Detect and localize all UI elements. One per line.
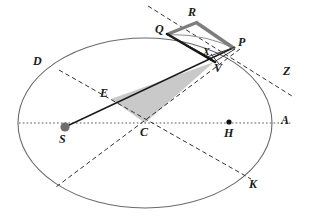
label-point-S: S	[59, 133, 66, 145]
segment-q-to-r	[168, 22, 198, 34]
label-point-R: R	[188, 6, 196, 18]
label-point-E: E	[100, 87, 108, 99]
focus-point-s	[60, 122, 69, 131]
label-point-A: A	[281, 114, 289, 126]
swept-area-triangle	[111, 62, 214, 123]
label-point-Q: Q	[155, 23, 164, 35]
label-point-K: K	[249, 178, 257, 190]
label-point-H: H	[224, 127, 233, 139]
label-point-Z: Z	[283, 65, 290, 77]
label-point-P: P	[238, 36, 245, 48]
label-point-X: X	[203, 47, 210, 57]
label-point-C: C	[140, 126, 148, 138]
focus-point-h	[226, 119, 231, 124]
diagram-root: D Q R P X V Z E C S H A K	[0, 0, 311, 224]
label-point-V: V	[214, 62, 222, 74]
label-point-D: D	[33, 55, 42, 67]
